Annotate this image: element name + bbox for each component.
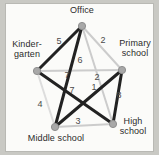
node-label-high_school: High school (93, 117, 159, 136)
edge-weight-office-high_school: 1 (89, 83, 99, 92)
edge-weight-primary_school-middle_school: 2 (92, 73, 102, 82)
edge-weight-office-middle_school: 7 (62, 71, 72, 80)
edge-weight-middle_school-high_school: 3 (73, 117, 83, 126)
edge-weight-kindergarten-high_school: 7 (67, 86, 77, 95)
graph-node-kindergarten (33, 67, 40, 74)
node-label-kindergarten: Kinder- garten (0, 40, 67, 59)
edge-weight-kindergarten-primary_school: 6 (75, 56, 85, 65)
graph-node-primary_school (118, 66, 125, 73)
node-label-primary_school: Primary school (95, 39, 159, 58)
node-label-office: Office (42, 6, 122, 16)
node-label-middle_school: Middle school (16, 134, 96, 144)
edge-weight-primary_school-high_school: 8 (114, 91, 124, 100)
graph-node-office (78, 22, 85, 29)
edge-weight-kindergarten-middle_school: 4 (35, 100, 45, 109)
graph-node-middle_school (51, 123, 58, 130)
graph-edge-kindergarten-primary_school (37, 70, 122, 71)
graph-figure: 5271647283 OfficeKinder- gartenPrimary s… (0, 0, 159, 155)
